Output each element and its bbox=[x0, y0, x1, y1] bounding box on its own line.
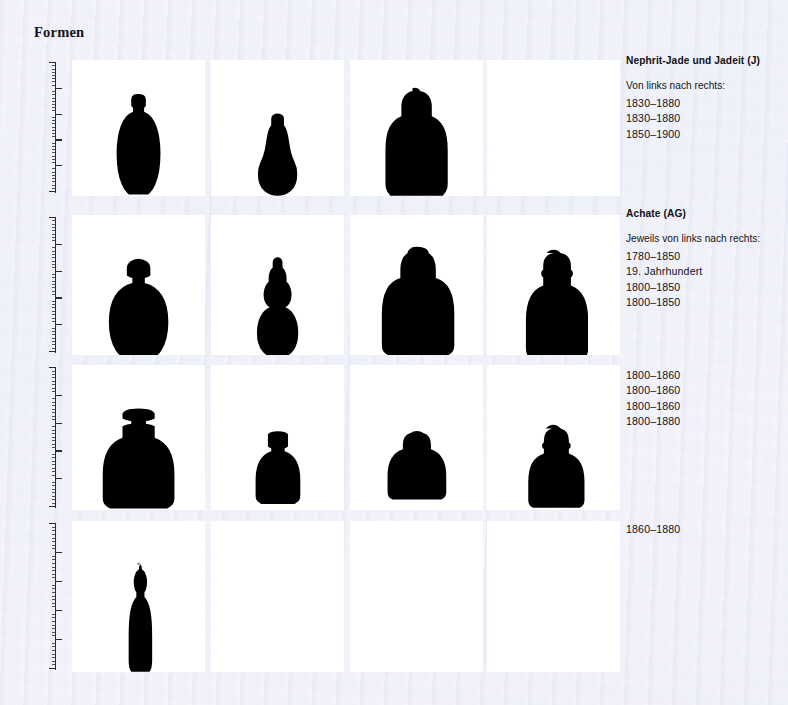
ruler-minor-tick bbox=[52, 314, 55, 315]
ruler-minor-tick bbox=[52, 152, 55, 153]
ruler-minor-tick bbox=[52, 377, 55, 378]
ruler-minor-tick bbox=[52, 409, 55, 410]
ruler-minor-tick bbox=[52, 444, 55, 445]
ruler-minor-tick bbox=[52, 294, 55, 295]
specimen-panel bbox=[72, 521, 205, 672]
ruler-minor-tick bbox=[52, 120, 55, 121]
caption-block: 1860–1880 bbox=[626, 522, 786, 537]
ruler-minor-tick bbox=[52, 657, 55, 658]
caption-block: Achate (AG)Jeweils von links nach rechts… bbox=[626, 208, 786, 311]
ruler-minor-tick bbox=[52, 419, 55, 420]
ruler-minor-tick bbox=[52, 301, 55, 302]
ruler-minor-tick bbox=[52, 596, 55, 597]
scale-ruler bbox=[44, 217, 66, 353]
ruler-minor-tick bbox=[52, 606, 55, 607]
specimen-panel bbox=[350, 60, 483, 196]
snuff-bottle-silhouette bbox=[251, 112, 304, 196]
ruler-minor-tick bbox=[52, 334, 55, 335]
ruler-minor-tick bbox=[52, 559, 55, 560]
ruler-major-tick bbox=[49, 217, 56, 218]
ruler-minor-tick bbox=[52, 468, 55, 469]
ruler-minor-tick bbox=[52, 143, 55, 144]
page-title: Formen bbox=[34, 24, 84, 41]
ruler-minor-tick bbox=[52, 107, 55, 108]
ruler-minor-tick bbox=[52, 181, 55, 182]
snuff-bottle-silhouette bbox=[253, 257, 302, 355]
ruler-minor-tick bbox=[52, 318, 55, 319]
ruler-minor-tick bbox=[52, 503, 55, 504]
snuff-bottle-silhouette bbox=[519, 249, 588, 355]
ruler-minor-tick bbox=[52, 277, 55, 278]
ruler-minor-tick bbox=[52, 384, 55, 385]
ruler-minor-tick bbox=[52, 371, 55, 372]
specimen-panel bbox=[487, 521, 620, 672]
ruler-minor-tick bbox=[52, 599, 55, 600]
ruler-minor-tick bbox=[52, 534, 55, 535]
ruler-minor-tick bbox=[52, 284, 55, 285]
snuff-bottle-silhouette bbox=[116, 563, 161, 672]
scale-ruler bbox=[44, 367, 66, 508]
ruler-minor-tick bbox=[52, 416, 55, 417]
ruler-minor-tick bbox=[52, 603, 55, 604]
ruler-minor-tick bbox=[52, 98, 55, 99]
specimen-panel bbox=[350, 215, 483, 355]
ruler-minor-tick bbox=[52, 307, 55, 308]
ruler-minor-tick bbox=[52, 127, 55, 128]
ruler-minor-tick bbox=[52, 530, 55, 531]
ruler-minor-tick bbox=[52, 240, 55, 241]
snuff-bottle-silhouette bbox=[104, 254, 173, 355]
ruler-minor-tick bbox=[52, 175, 55, 176]
ruler-minor-tick bbox=[52, 643, 55, 644]
ruler-minor-tick bbox=[52, 156, 55, 157]
ruler-minor-tick bbox=[52, 447, 55, 448]
ruler-minor-tick bbox=[52, 588, 55, 589]
ruler-minor-tick bbox=[52, 75, 55, 76]
specimen-panel bbox=[487, 365, 620, 510]
ruler-major-tick bbox=[55, 581, 62, 582]
ruler-minor-tick bbox=[52, 563, 55, 564]
ruler-minor-tick bbox=[52, 492, 55, 493]
ruler-minor-tick bbox=[52, 541, 55, 542]
specimen-panel bbox=[211, 60, 344, 196]
caption-date-line: 19. Jahrhundert bbox=[626, 264, 786, 279]
ruler-minor-tick bbox=[52, 274, 55, 275]
specimen-panel bbox=[487, 215, 620, 355]
ruler-major-tick bbox=[55, 271, 62, 272]
specimen-panel bbox=[487, 60, 620, 196]
ruler-major-tick bbox=[49, 523, 56, 524]
ruler-minor-tick bbox=[52, 344, 55, 345]
ruler-minor-tick bbox=[52, 94, 55, 95]
ruler-minor-tick bbox=[52, 146, 55, 147]
ruler-major-tick bbox=[49, 506, 56, 507]
ruler-minor-tick bbox=[52, 287, 55, 288]
caption-date-line: 1830–1880 bbox=[626, 96, 786, 111]
ruler-minor-tick bbox=[52, 304, 55, 305]
ruler-minor-tick bbox=[52, 461, 55, 462]
ruler-minor-tick bbox=[52, 381, 55, 382]
caption-heading: Nephrit-Jade und Jadeit (J) bbox=[626, 55, 786, 66]
ruler-minor-tick bbox=[52, 162, 55, 163]
ruler-major-tick bbox=[55, 478, 62, 479]
caption-date-line: 1850–1900 bbox=[626, 127, 786, 142]
ruler-minor-tick bbox=[52, 136, 55, 137]
ruler-minor-tick bbox=[52, 224, 55, 225]
ruler-minor-tick bbox=[52, 374, 55, 375]
ruler-minor-tick bbox=[52, 341, 55, 342]
ruler-minor-tick bbox=[52, 65, 55, 66]
ruler-minor-tick bbox=[52, 159, 55, 160]
ruler-minor-tick bbox=[52, 91, 55, 92]
ruler-minor-tick bbox=[52, 185, 55, 186]
ruler-minor-tick bbox=[52, 338, 55, 339]
ruler-major-tick bbox=[55, 610, 62, 611]
ruler-minor-tick bbox=[52, 592, 55, 593]
ruler-minor-tick bbox=[52, 391, 55, 392]
ruler-minor-tick bbox=[52, 110, 55, 111]
ruler-minor-tick bbox=[52, 234, 55, 235]
ruler-minor-tick bbox=[52, 499, 55, 500]
scale-ruler bbox=[44, 62, 66, 193]
ruler-minor-tick bbox=[52, 311, 55, 312]
ruler-minor-tick bbox=[52, 254, 55, 255]
ruler-major-tick bbox=[55, 244, 62, 245]
ruler-minor-tick bbox=[52, 412, 55, 413]
ruler-minor-tick bbox=[52, 496, 55, 497]
